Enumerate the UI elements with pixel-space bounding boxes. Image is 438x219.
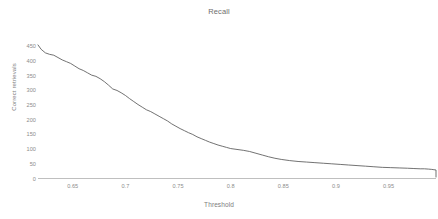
plot-area (0, 0, 438, 219)
recall-curve (38, 45, 436, 177)
chart-container: Recall 450400350300250200150100500 0.650… (0, 0, 438, 219)
